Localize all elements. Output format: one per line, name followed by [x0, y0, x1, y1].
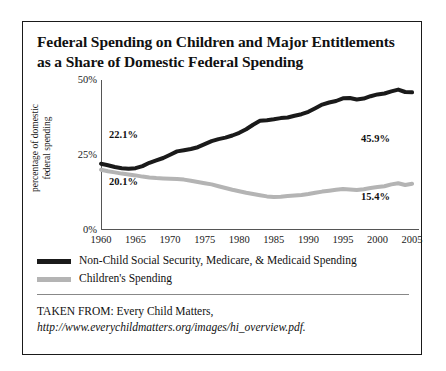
y-axis-tick-25: 25%: [53, 150, 97, 161]
figure-container: Federal Spending on Children and Major E…: [22, 21, 422, 355]
source-prefix: TAKEN FROM: Every Child Matters,: [37, 305, 213, 317]
chart-title-line-1: Federal Spending on Children and Major E…: [37, 32, 409, 52]
legend-label-non-child-entitlements: Non-Child Social Security, Medicare, & M…: [79, 255, 357, 267]
legend-item-childrens-spending: Children's Spending: [37, 272, 409, 286]
x-axis-tick-1980: 1980: [229, 235, 250, 246]
legend-swatch-icon-gray: [37, 277, 71, 282]
source-attribution: TAKEN FROM: Every Child Matters, http://…: [37, 303, 411, 336]
x-axis-tick-2000: 2000: [367, 235, 388, 246]
plot-region: percentage of domestic federal spending …: [23, 80, 423, 248]
chart-title: Federal Spending on Children and Major E…: [37, 32, 409, 72]
x-axis-tick-1965: 1965: [125, 235, 146, 246]
chart-legend: Non-Child Social Security, Medicare, & M…: [37, 254, 409, 290]
x-axis-tick-1985: 1985: [263, 235, 284, 246]
plot-axes: [101, 80, 419, 230]
series-line-non-child-entitlements: [101, 90, 412, 169]
source-url: http://www.everychildmatters.org/images/…: [37, 321, 306, 333]
chart-title-line-2: as a Share of Domestic Federal Spending: [37, 52, 409, 72]
x-axis-tick-1975: 1975: [194, 235, 215, 246]
legend-label-childrens-spending: Children's Spending: [79, 273, 172, 285]
y-axis-label-line-1: percentage of domestic: [29, 83, 41, 213]
x-axis-tick-1960: 1960: [91, 235, 112, 246]
x-axis-tick-1995: 1995: [333, 235, 354, 246]
annotation-end-gray: 15.4%: [361, 192, 390, 203]
x-axis-tick-1970: 1970: [160, 235, 181, 246]
legend-item-non-child-entitlements: Non-Child Social Security, Medicare, & M…: [37, 254, 409, 268]
x-axis-tick-2005: 2005: [402, 235, 423, 246]
x-axis-tick-1990: 1990: [298, 235, 319, 246]
annotation-start-gray: 20.1%: [109, 177, 138, 188]
annotation-end-black: 45.9%: [361, 134, 390, 145]
y-axis-tick-50: 50%: [53, 75, 97, 86]
annotation-start-black: 22.1%: [109, 130, 138, 141]
legend-swatch-icon-black: [37, 259, 71, 264]
series-plot: [101, 80, 419, 230]
y-axis-ticks: 50% 25% 0%: [51, 80, 97, 230]
legend-divider: [37, 294, 409, 295]
